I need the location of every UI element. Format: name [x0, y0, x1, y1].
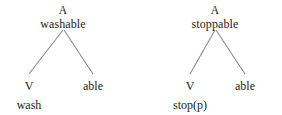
root-form-label: stoppable: [192, 18, 239, 30]
root-category-label: A: [211, 5, 219, 17]
tree-washable: A washable V wash able: [0, 0, 141, 115]
left-leaf-form-label: wash: [17, 99, 42, 111]
branch-left: [190, 30, 215, 74]
morphology-tree-figure: A washable V wash able A stoppable V sto…: [0, 0, 282, 115]
left-leaf-form-label: stop(p): [173, 99, 207, 111]
tree-stoppable: A stoppable V stop(p) able: [141, 0, 282, 115]
right-leaf-category-label: able: [83, 80, 103, 92]
right-leaf-category-label: able: [235, 80, 255, 92]
branch-left: [29, 30, 63, 74]
branch-right: [216, 30, 245, 74]
branch-right: [64, 30, 93, 74]
left-leaf-category-label: V: [25, 80, 34, 92]
left-leaf-category-label: V: [186, 80, 195, 92]
root-form-label: washable: [40, 18, 85, 30]
root-category-label: A: [59, 5, 67, 17]
